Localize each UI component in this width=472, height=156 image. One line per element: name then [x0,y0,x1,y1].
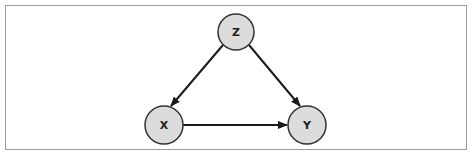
node-x: X [145,106,183,144]
node-z-label: Z [232,26,240,39]
node-z: Z [218,14,254,50]
node-y-label: Y [302,119,312,132]
node-x-label: X [160,119,169,132]
edge-z-to-x [171,45,223,106]
node-y: Y [288,106,326,144]
edge-z-to-y [249,45,300,106]
causal-diagram: Z X Y [0,0,472,156]
